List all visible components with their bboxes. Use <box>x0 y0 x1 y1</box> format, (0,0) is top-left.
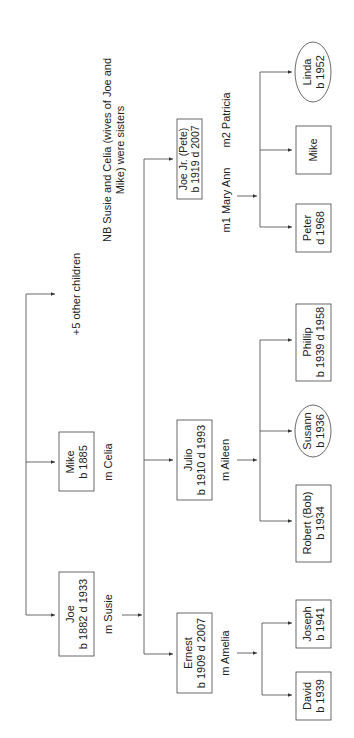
spouse-patricia: m2 Patricia <box>220 92 232 148</box>
person-mike-gen1: Mike b 1885 <box>59 432 94 491</box>
svg-text:Mike: Mike <box>307 138 319 161</box>
person-phillip: Phillip b 1939 d 1958 <box>296 304 331 381</box>
svg-text:b 1919 d 2007: b 1919 d 2007 <box>189 125 201 192</box>
svg-text:b 1885: b 1885 <box>77 445 89 479</box>
person-julio: Julio b 1910 d 1993 <box>177 420 212 500</box>
spouse-celia: m Celia <box>102 442 114 480</box>
svg-text:b 1934: b 1934 <box>314 506 326 540</box>
svg-text:Mike) were sisters: Mike) were sisters <box>114 105 126 194</box>
person-linda: Linda b 1952 <box>295 42 331 102</box>
person-susann: Susann b 1936 <box>295 405 331 457</box>
svg-text:Susann: Susann <box>301 412 313 449</box>
person-joe-jr: Joe Jr. (Pete) b 1919 d 2007 <box>177 119 202 199</box>
svg-text:Joe Jr. (Pete): Joe Jr. (Pete) <box>177 128 189 190</box>
svg-text:b 1936: b 1936 <box>314 414 326 448</box>
svg-text:b 1939 d 1958: b 1939 d 1958 <box>314 307 326 377</box>
svg-text:David: David <box>301 682 313 710</box>
spouse-mary-ann: m1 Mary Ann <box>220 168 232 233</box>
svg-text:Mike: Mike <box>64 450 76 473</box>
svg-text:b 1910 d 1993: b 1910 d 1993 <box>195 425 207 495</box>
spouse-aileen: m Aileen <box>219 439 231 481</box>
svg-text:Peter: Peter <box>301 215 313 242</box>
person-mike-gen3: Mike <box>296 126 331 174</box>
svg-text:b 1909 d 2007: b 1909 d 2007 <box>195 618 207 688</box>
svg-text:Ernest: Ernest <box>182 637 194 669</box>
svg-text:b 1952: b 1952 <box>314 55 326 89</box>
person-ernest: Ernest b 1909 d 2007 <box>177 613 212 693</box>
gen3-joejr-connectors <box>260 72 292 227</box>
gen3-julio-connectors <box>260 340 292 521</box>
note-text: NB Susie and Celia (wives of Joe and Mik… <box>101 58 126 242</box>
svg-text:NB Susie and Celia (wives of J: NB Susie and Celia (wives of Joe and <box>101 58 113 242</box>
person-joe: Joe b 1882 d 1933 <box>59 572 94 656</box>
svg-text:Joe: Joe <box>64 605 76 623</box>
person-david: David b 1939 <box>296 672 331 720</box>
person-peter: Peter d 1968 <box>296 204 331 252</box>
svg-text:b 1939: b 1939 <box>314 679 326 713</box>
svg-text:Linda: Linda <box>301 58 313 86</box>
svg-text:b 1941: b 1941 <box>314 607 326 641</box>
gen3-ernest-connectors <box>262 623 292 695</box>
spouse-susie: m Susie <box>102 594 114 634</box>
family-tree-diagram: NB Susie and Celia (wives of Joe and Mik… <box>0 0 354 738</box>
svg-text:Joseph: Joseph <box>301 606 313 641</box>
gen1-connectors <box>26 294 55 615</box>
gen2-connectors <box>144 159 173 654</box>
svg-text:d 1968: d 1968 <box>314 211 326 245</box>
other-children-label: +5 other children <box>70 253 82 335</box>
person-joseph: Joseph b 1941 <box>296 600 331 648</box>
svg-text:Julio: Julio <box>182 449 194 472</box>
person-robert: Robert (Bob) b 1934 <box>296 485 331 562</box>
svg-text:Phillip: Phillip <box>301 327 313 356</box>
svg-text:Robert (Bob): Robert (Bob) <box>301 492 313 555</box>
spouse-amelia: m Amelia <box>219 630 231 676</box>
svg-text:b 1882 d 1933: b 1882 d 1933 <box>77 579 89 649</box>
